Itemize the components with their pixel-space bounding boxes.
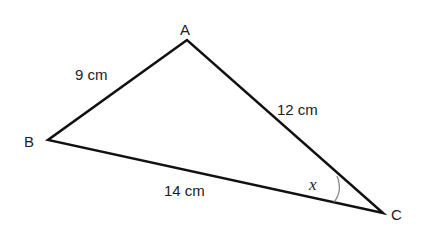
angle-label-x: x [308, 175, 317, 194]
vertex-label-a: A [180, 21, 190, 38]
side-label-ac: 12 cm [277, 101, 318, 118]
triangle-diagram: A B C 9 cm 12 cm 14 cm x [0, 0, 425, 228]
side-label-ab: 9 cm [75, 66, 108, 83]
vertex-label-c: C [391, 206, 402, 223]
vertex-label-b: B [24, 133, 34, 150]
side-label-bc: 14 cm [164, 182, 205, 199]
angle-x-arc [334, 176, 339, 202]
